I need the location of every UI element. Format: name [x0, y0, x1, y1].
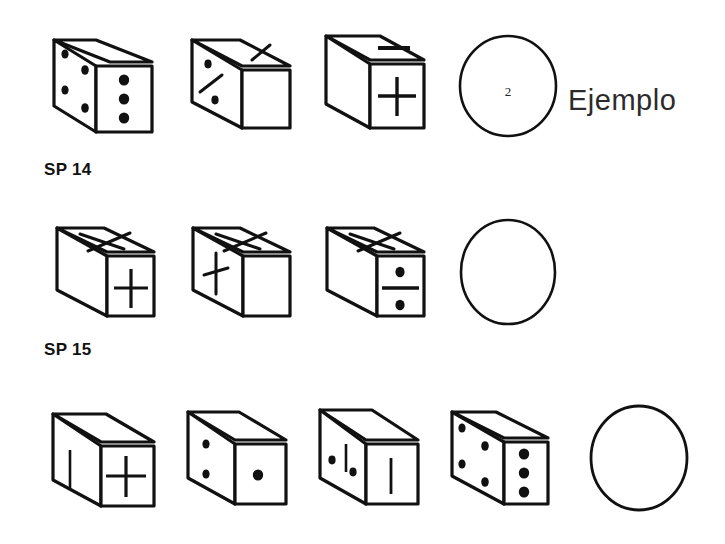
cube-figure — [318, 28, 430, 140]
answer-circle-r1[interactable]: 2 — [454, 32, 562, 140]
cube-figure — [444, 402, 556, 518]
cube-r1-c3[interactable] — [318, 28, 430, 140]
answer-value: 2 — [505, 84, 512, 99]
row-label-sp14: SP 14 — [44, 160, 92, 180]
cube-figure — [186, 28, 296, 140]
answer-circle — [584, 402, 694, 514]
cube-figure — [50, 218, 162, 328]
answer-circle — [454, 216, 562, 328]
question-row-sp16 — [0, 402, 725, 518]
cube-r3-c3[interactable] — [310, 402, 426, 518]
front-face-pip — [253, 469, 263, 480]
cube-figure — [186, 218, 298, 328]
cube-figure — [310, 402, 426, 518]
cube-r1-c1[interactable] — [48, 28, 158, 140]
question-row-example: 2 Ejemplo — [0, 28, 725, 148]
answer-circle-r2[interactable] — [454, 216, 562, 328]
example-label: Ejemplo — [568, 84, 676, 117]
cube-r2-c3[interactable] — [320, 218, 432, 328]
cube-r3-c1[interactable] — [44, 402, 162, 518]
cube-r1-c2[interactable] — [186, 28, 296, 140]
answer-circle-r3[interactable] — [584, 402, 694, 514]
cube-figure — [48, 28, 158, 140]
cube-r3-c4[interactable] — [444, 402, 556, 518]
row-label-sp15: SP 15 — [44, 340, 92, 360]
cube-r2-c1[interactable] — [50, 218, 162, 328]
cube-figure — [44, 402, 162, 518]
cube-r3-c2[interactable] — [180, 402, 294, 518]
question-row-sp15 — [0, 218, 725, 333]
answer-circle: 2 — [454, 32, 562, 140]
cube-figure — [180, 402, 294, 518]
front-face-pips — [519, 448, 529, 497]
test-sheet: 2 Ejemplo SP 14 — [0, 0, 725, 544]
front-face-pips — [119, 74, 129, 123]
cube-figure — [320, 218, 432, 328]
cube-r2-c2[interactable] — [186, 218, 298, 328]
